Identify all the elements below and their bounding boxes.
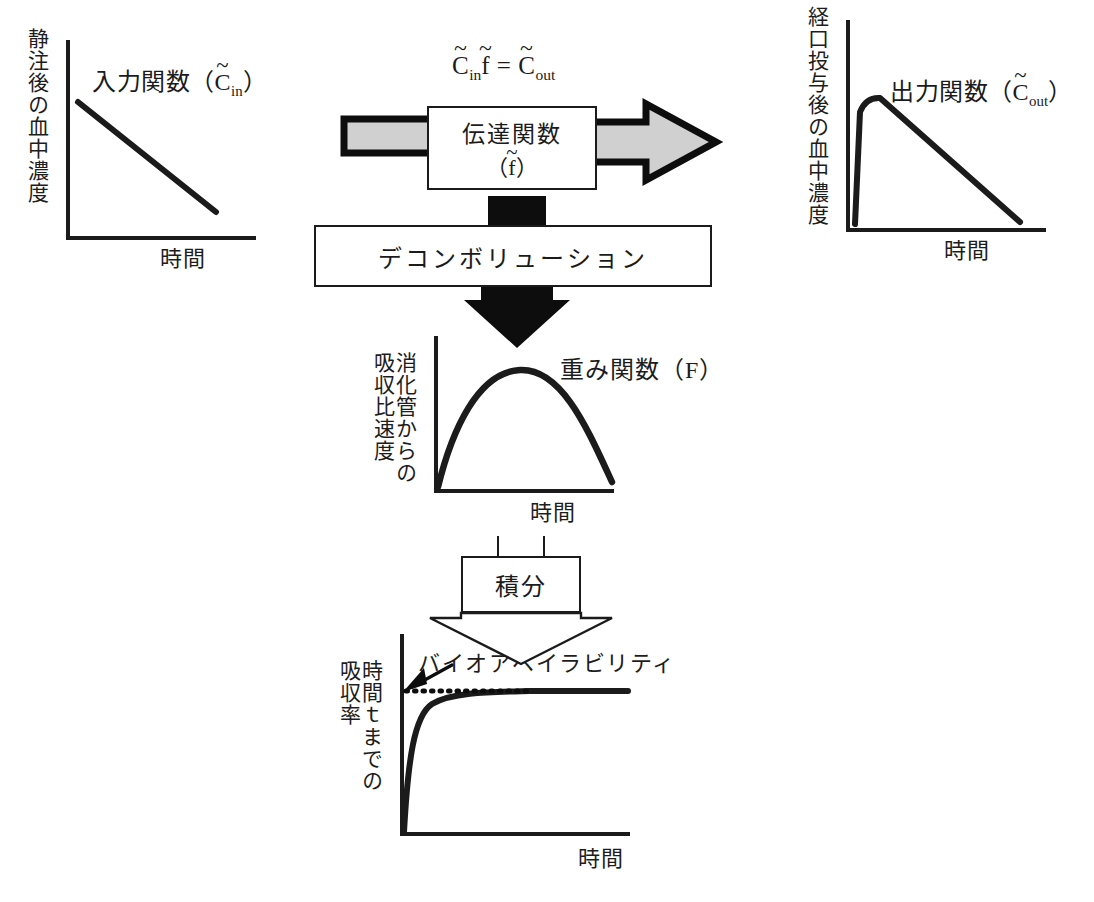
input-title-suffix: ） xyxy=(243,69,268,95)
input-chart-x-label: 時間 xyxy=(160,240,206,272)
equation-operator: = xyxy=(497,52,512,79)
output-title-suffix: ） xyxy=(1048,79,1073,105)
absorption-y-label-col2: 吸収率 xyxy=(338,660,360,820)
weight-y-label-col2: 吸収比速度 xyxy=(372,352,394,502)
input-chart-title: 入力関数（~Cin） xyxy=(92,62,267,100)
absorption-chart-y-axis xyxy=(400,634,404,836)
equation-cin: ~C xyxy=(452,52,469,80)
weight-function-curve xyxy=(438,370,612,487)
input-chart-y-label: 静注後の血中濃度 xyxy=(26,28,48,228)
diagram-canvas: 静注後の血中濃度 時間 入力関数（~Cin） 経口投与後の血中濃度 時間 出力関… xyxy=(0,0,1094,902)
input-title-symbol: ~C xyxy=(215,69,232,96)
tilde-accent-icon: ~ xyxy=(1014,65,1027,88)
weight-chart-x-axis xyxy=(434,489,614,493)
transfer-equation: ~Cin~f = ~Cout xyxy=(452,52,555,84)
transfer-to-deconvolution-connector xyxy=(488,196,546,226)
transfer-to-output-arrow xyxy=(592,104,716,180)
output-chart-x-label: 時間 xyxy=(944,232,990,264)
weight-y-label-col1: 消化管からの xyxy=(394,352,416,502)
tf-paren-open: （ xyxy=(486,155,508,180)
transfer-function-symbol: （~f） xyxy=(486,149,537,181)
input-title-sub: in xyxy=(231,83,243,99)
input-to-transfer-arrow xyxy=(344,119,432,153)
output-chart-y-label: 経口投与後の血中濃度 xyxy=(806,6,828,228)
output-chart-title: 出力関数（~Cout） xyxy=(890,72,1073,110)
weight-chart-y-label: 消化管からの 吸収比速度 xyxy=(372,352,416,502)
integration-box[interactable]: 積分 xyxy=(461,556,581,613)
tilde-accent-icon: ~ xyxy=(479,37,492,61)
tf-symbol-f: ~f xyxy=(508,155,515,181)
tilde-accent-icon: ~ xyxy=(520,37,533,61)
deconvolution-box[interactable]: デコンボリューション xyxy=(314,225,712,287)
equation-cout-sub: out xyxy=(535,66,555,83)
output-chart-y-axis xyxy=(846,20,850,230)
equation-cin-sub: in xyxy=(469,66,481,83)
weight-chart-x-label: 時間 xyxy=(530,494,576,526)
input-title-prefix: 入力関数（ xyxy=(92,69,215,95)
tf-paren-close: ） xyxy=(516,155,538,180)
output-function-curve xyxy=(855,98,1020,224)
weight-chart-title: 重み関数（F） xyxy=(560,350,724,385)
input-chart-y-axis xyxy=(66,40,70,240)
absorption-chart-y-label: 時間ｔまでの 吸収率 xyxy=(338,660,382,832)
transfer-function-box[interactable]: 伝達関数 （~f） xyxy=(427,106,597,190)
bioavailability-annotation: バイオアベイラビリティ xyxy=(418,645,676,677)
output-title-prefix: 出力関数（ xyxy=(890,79,1013,105)
absorption-y-label-col1: 時間ｔまでの xyxy=(360,660,382,832)
absorption-chart-x-axis xyxy=(400,832,630,836)
output-title-symbol: ~C xyxy=(1013,79,1030,106)
deconvolution-to-weight-arrow xyxy=(464,287,570,348)
weight-chart-y-axis xyxy=(434,336,438,492)
deconvolution-label: デコンボリューション xyxy=(378,239,648,274)
absorption-chart-x-label: 時間 xyxy=(578,840,624,872)
integration-label: 積分 xyxy=(495,567,547,602)
input-function-curve xyxy=(78,102,216,212)
absorption-rate-curve xyxy=(404,691,628,832)
tilde-accent-icon: ~ xyxy=(454,37,467,61)
output-title-sub: out xyxy=(1029,93,1048,109)
tilde-accent-icon: ~ xyxy=(216,55,229,78)
equation-cout: ~C xyxy=(518,52,535,80)
equation-f: ~f xyxy=(481,52,490,80)
tilde-accent-icon: ~ xyxy=(506,142,517,163)
